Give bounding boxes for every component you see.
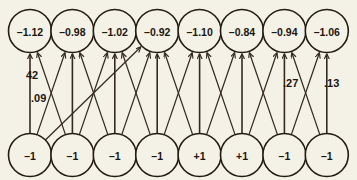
weight-label-w-vertical-1: 42 — [26, 69, 38, 81]
node-label-bot-1: –1 — [24, 150, 36, 162]
node-label-bot-3: –1 — [109, 150, 121, 162]
edges-group — [30, 47, 327, 140]
node-label-top-4: –0.92 — [144, 26, 170, 38]
node-label-top-6: –0.84 — [229, 26, 255, 38]
diagram-canvas: –1.12–0.98–1.02–0.92–1.10–0.84–0.94–1.06… — [0, 0, 357, 180]
edge-1-to-4 — [45, 47, 140, 140]
node-label-top-7: –0.94 — [271, 26, 297, 38]
node-top-3[interactable]: –1.02 — [93, 10, 136, 53]
node-label-bot-7: –1 — [279, 150, 291, 162]
node-label-bot-8: –1 — [321, 150, 333, 162]
node-label-bot-6: +1 — [236, 150, 248, 162]
node-label-bot-4: –1 — [151, 150, 163, 162]
node-top-6[interactable]: –0.84 — [221, 10, 264, 53]
node-label-top-5: –1.10 — [186, 26, 212, 38]
node-label-top-1: –1.12 — [17, 26, 43, 38]
node-label-top-3: –1.02 — [102, 26, 128, 38]
node-bot-1[interactable]: –1 — [9, 134, 52, 177]
node-top-7[interactable]: –0.94 — [263, 10, 306, 53]
node-label-top-2: –0.98 — [59, 26, 85, 38]
node-bot-3[interactable]: –1 — [93, 134, 136, 177]
node-top-4[interactable]: –0.92 — [136, 10, 179, 53]
node-label-top-8: –1.06 — [314, 26, 340, 38]
node-label-bot-2: –1 — [67, 150, 79, 162]
node-label-bot-5: +1 — [194, 150, 206, 162]
node-bot-6[interactable]: +1 — [221, 134, 264, 177]
node-top-2[interactable]: –0.98 — [51, 10, 94, 53]
node-bot-5[interactable]: +1 — [178, 134, 221, 177]
node-top-1[interactable]: –1.12 — [9, 10, 52, 53]
node-top-8[interactable]: –1.06 — [305, 10, 348, 53]
weight-label-w-vertical-8: .13 — [324, 77, 339, 89]
network-graph: –1.12–0.98–1.02–0.92–1.10–0.84–0.94–1.06… — [0, 0, 357, 180]
node-top-5[interactable]: –1.10 — [178, 10, 221, 53]
node-bot-7[interactable]: –1 — [263, 134, 306, 177]
weight-label-w-vertical-7: .27 — [283, 77, 298, 89]
node-bot-2[interactable]: –1 — [51, 134, 94, 177]
node-bot-4[interactable]: –1 — [136, 134, 179, 177]
node-bot-8[interactable]: –1 — [305, 134, 348, 177]
weight-label-w-diagonal-1-4: .09 — [31, 92, 46, 104]
